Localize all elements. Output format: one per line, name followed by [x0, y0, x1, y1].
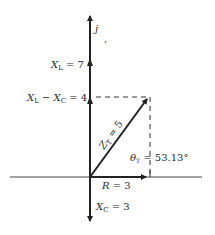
- xc-label: XC = 3: [95, 201, 130, 214]
- xl-arrowhead: [87, 58, 93, 66]
- xl-label: XL = 7: [50, 59, 84, 72]
- xlxc-arrowhead: [87, 96, 93, 104]
- tick-mark: ,: [104, 33, 107, 44]
- theta-label: θT = 53.13°: [130, 152, 188, 164]
- impedance-phasor-diagram: j , XL = 7 XL − XC = 4 ZT = 5 θT = 53.13…: [0, 0, 215, 235]
- xlxc-label: XL − XC = 4: [26, 92, 87, 105]
- zt-vector: [90, 99, 147, 177]
- r-label: R = 3: [101, 180, 131, 191]
- j-axis-label: j: [93, 23, 98, 34]
